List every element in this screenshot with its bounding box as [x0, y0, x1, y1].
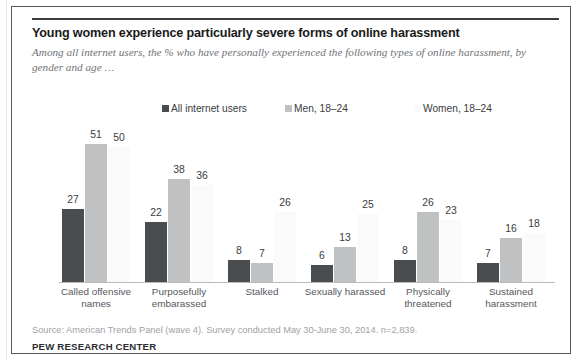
bar-group-bars: 71618: [477, 126, 545, 282]
bar-value-label: 27: [67, 194, 79, 205]
bar[interactable]: 8: [394, 260, 416, 282]
legend-swatch-icon: [162, 105, 169, 112]
bar[interactable]: 25: [357, 214, 379, 281]
bar-group-bars: 82623: [394, 126, 462, 282]
legend-item-all-internet-users[interactable]: All internet users: [162, 103, 247, 114]
title-rule: [32, 18, 559, 20]
figure-page: Young women experience particularly seve…: [0, 0, 583, 360]
x-axis-line: [59, 282, 555, 284]
bar-value-label: 16: [505, 223, 517, 234]
bar-group-bars: 275150: [62, 126, 130, 282]
legend-swatch-icon: [414, 105, 421, 112]
bar[interactable]: 7: [251, 263, 273, 282]
bar-value-label: 6: [319, 250, 325, 261]
bar[interactable]: 8: [228, 260, 250, 282]
legend-label: Men, 18–24: [294, 103, 348, 114]
figure-frame: Young women experience particularly seve…: [11, 6, 571, 354]
bar[interactable]: 38: [168, 179, 190, 281]
bar-value-label: 26: [279, 197, 291, 208]
bar[interactable]: 36: [191, 185, 213, 282]
bar-value-label: 38: [173, 164, 185, 175]
bar-value-label: 7: [259, 248, 265, 259]
bar-value-label: 8: [236, 245, 242, 256]
bar-value-label: 26: [422, 197, 434, 208]
legend-item-women-18-24[interactable]: Women, 18–24: [414, 103, 492, 114]
legend-label: Women, 18–24: [423, 103, 492, 114]
bar[interactable]: 26: [417, 212, 439, 282]
brand-label: PEW RESEARCH CENTER: [32, 341, 156, 352]
source-note: Source: American Trends Panel (wave 4). …: [32, 325, 417, 335]
bar[interactable]: 51: [85, 144, 107, 281]
bar[interactable]: 26: [274, 212, 296, 282]
bar-value-label: 23: [445, 205, 457, 216]
bar-value-label: 25: [362, 199, 374, 210]
bar-value-label: 13: [339, 232, 351, 243]
bar[interactable]: 16: [500, 238, 522, 281]
bar-group-bars: 223836: [145, 126, 213, 282]
page-edge: [0, 0, 7, 360]
bar-group-bars: 8726: [228, 126, 296, 282]
bar-value-label: 36: [196, 170, 208, 181]
bar[interactable]: 13: [334, 247, 356, 282]
bar-value-label: 8: [402, 245, 408, 256]
bar-value-label: 22: [150, 207, 162, 218]
bar-value-label: 51: [90, 129, 102, 140]
bar[interactable]: 23: [440, 220, 462, 282]
bar[interactable]: 22: [145, 222, 167, 281]
bar-value-label: 50: [113, 132, 125, 143]
legend-swatch-icon: [285, 105, 292, 112]
legend-label: All internet users: [171, 103, 247, 114]
page-title: Young women experience particularly seve…: [32, 25, 562, 41]
bar[interactable]: 7: [477, 263, 499, 282]
legend-item-men-18-24[interactable]: Men, 18–24: [285, 103, 348, 114]
chart-legend: All internet users Men, 18–24 Women, 18–…: [32, 103, 559, 119]
bar[interactable]: 18: [523, 233, 545, 281]
bar[interactable]: 27: [62, 209, 84, 282]
bar-value-label: 18: [528, 218, 540, 229]
bar-value-label: 7: [485, 248, 491, 259]
bar-group-bars: 61325: [311, 126, 379, 282]
figure-subtitle: Among all internet users, the % who have…: [32, 45, 547, 74]
x-axis-category-label: Sustainedharassment: [456, 286, 566, 310]
bar-chart-plot: 275150Called offensivenames223836Purpose…: [32, 125, 559, 283]
bar[interactable]: 50: [108, 147, 130, 281]
bar[interactable]: 6: [311, 265, 333, 281]
